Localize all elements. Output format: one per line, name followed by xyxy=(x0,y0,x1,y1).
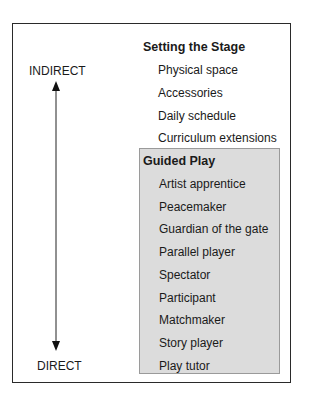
list-item: Play tutor xyxy=(159,359,210,373)
list-item: Accessories xyxy=(158,86,223,100)
list-item: Participant xyxy=(159,291,216,305)
list-item: Curriculum extensions xyxy=(158,131,277,145)
list-item: Physical space xyxy=(158,63,238,77)
list-item: Story player xyxy=(159,336,223,350)
list-item: Peacemaker xyxy=(159,200,226,214)
list-item: Parallel player xyxy=(159,245,235,259)
indirect-label: INDIRECT xyxy=(29,64,86,78)
list-item: Guardian of the gate xyxy=(159,222,268,236)
list-item: Spectator xyxy=(159,268,210,282)
section-title-guided-play: Guided Play xyxy=(143,154,215,168)
list-item: Matchmaker xyxy=(159,313,225,327)
direct-label: DIRECT xyxy=(37,359,82,373)
list-item: Daily schedule xyxy=(158,109,236,123)
double-arrow-icon xyxy=(48,80,64,352)
list-item: Artist apprentice xyxy=(159,177,246,191)
section-title-setting-the-stage: Setting the Stage xyxy=(143,40,245,54)
